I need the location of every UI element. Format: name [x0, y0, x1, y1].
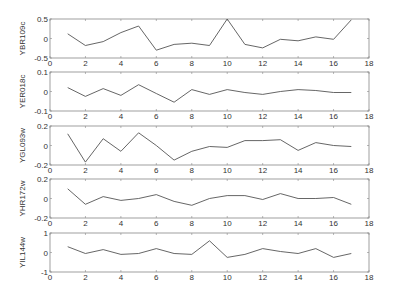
x-tick-label: 14: [294, 166, 303, 175]
x-tick-label: 0: [48, 112, 53, 121]
y-tick-label: -0.2: [34, 161, 48, 170]
x-tick-label: 4: [119, 219, 124, 228]
x-tick-label: 2: [83, 112, 88, 121]
x-tick-label: 8: [190, 219, 195, 228]
x-tick-label: 4: [119, 166, 124, 175]
x-tick-label: 16: [329, 166, 338, 175]
data-line: [68, 85, 352, 103]
y-axis-label: YHR172w: [18, 180, 27, 216]
x-tick-label: 16: [329, 273, 338, 282]
data-line: [68, 241, 352, 258]
y-tick-label: 0.5: [37, 15, 49, 24]
x-tick-label: 8: [190, 59, 195, 68]
y-axis-label: YGL093w: [18, 128, 27, 163]
x-tick-label: 16: [329, 219, 338, 228]
y-tick-label: 0: [44, 88, 49, 97]
subplot-yil144w: 02468101214161810-1YIL144w: [18, 229, 374, 282]
chart-figure: 0246810121416180.50-0.5YBR109c0246810121…: [0, 0, 393, 299]
x-tick-label: 6: [154, 112, 159, 121]
y-tick-label: -0.1: [34, 107, 48, 116]
y-tick-label: 0: [44, 195, 49, 204]
data-line: [68, 19, 352, 50]
y-tick-label: -1: [41, 268, 49, 277]
x-tick-label: 12: [258, 273, 267, 282]
x-tick-label: 8: [190, 112, 195, 121]
x-tick-label: 14: [294, 112, 303, 121]
x-tick-label: 0: [48, 166, 53, 175]
data-line: [68, 189, 352, 206]
y-axis-label: YBR109c: [18, 22, 27, 56]
x-tick-label: 12: [258, 112, 267, 121]
x-tick-label: 18: [365, 112, 374, 121]
x-tick-label: 0: [48, 273, 53, 282]
y-axis-label: YIL144w: [18, 237, 27, 268]
axes-frame: [50, 233, 369, 272]
data-line: [68, 133, 352, 162]
x-tick-label: 10: [223, 166, 232, 175]
subplot-yhr172w: 0246810121416180.20-0.2YHR172w: [18, 175, 374, 228]
x-tick-label: 6: [154, 59, 159, 68]
x-tick-label: 18: [365, 219, 374, 228]
x-tick-label: 14: [294, 273, 303, 282]
y-tick-label: 0: [44, 249, 49, 258]
x-tick-label: 18: [365, 166, 374, 175]
axes-frame: [50, 19, 369, 58]
subplot-ygl093w: 0246810121416180.20-0.2YGL093w: [18, 122, 374, 175]
x-tick-label: 2: [83, 166, 88, 175]
x-tick-label: 18: [365, 273, 374, 282]
x-tick-label: 10: [223, 112, 232, 121]
y-tick-label: -0.2: [34, 214, 48, 223]
x-tick-label: 12: [258, 219, 267, 228]
y-tick-label: 1: [44, 229, 49, 238]
y-tick-label: 0: [44, 142, 49, 151]
subplot-ybr109c: 0246810121416180.50-0.5YBR109c: [18, 15, 374, 68]
subplot-yer018c: 0246810121416180.10-0.1YER018c: [18, 68, 374, 121]
x-tick-label: 14: [294, 59, 303, 68]
x-tick-label: 6: [154, 219, 159, 228]
x-tick-label: 0: [48, 219, 53, 228]
x-tick-label: 16: [329, 112, 338, 121]
y-tick-label: 0.2: [37, 175, 49, 184]
x-tick-label: 12: [258, 166, 267, 175]
x-tick-label: 4: [119, 112, 124, 121]
x-tick-label: 4: [119, 59, 124, 68]
y-tick-label: 0.2: [37, 122, 49, 131]
x-tick-label: 2: [83, 219, 88, 228]
x-tick-label: 12: [258, 59, 267, 68]
y-tick-label: -0.5: [34, 54, 48, 63]
x-tick-label: 8: [190, 273, 195, 282]
x-tick-label: 8: [190, 166, 195, 175]
x-tick-label: 14: [294, 219, 303, 228]
x-tick-label: 0: [48, 59, 53, 68]
x-tick-label: 18: [365, 59, 374, 68]
x-tick-label: 10: [223, 273, 232, 282]
x-tick-label: 2: [83, 273, 88, 282]
x-tick-label: 6: [154, 273, 159, 282]
x-tick-label: 10: [223, 59, 232, 68]
y-tick-label: 0.1: [37, 68, 49, 77]
x-tick-label: 2: [83, 59, 88, 68]
y-axis-label: YER018c: [18, 75, 27, 109]
x-tick-label: 10: [223, 219, 232, 228]
x-tick-label: 6: [154, 166, 159, 175]
x-tick-label: 4: [119, 273, 124, 282]
y-tick-label: 0: [44, 35, 49, 44]
x-tick-label: 16: [329, 59, 338, 68]
